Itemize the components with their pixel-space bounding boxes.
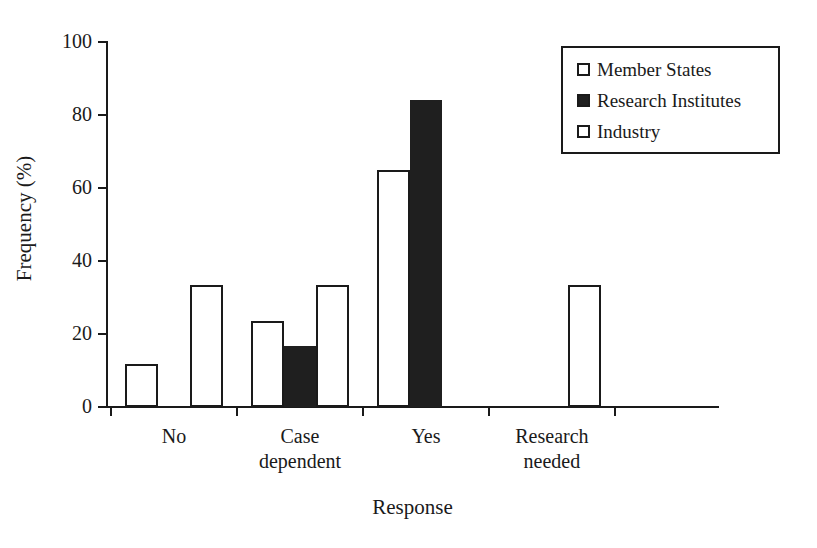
bar xyxy=(284,346,317,407)
x-category-label-line: Research xyxy=(472,424,632,449)
y-tick-label: 20 xyxy=(30,323,92,343)
x-category-label-line: dependent xyxy=(220,449,380,474)
bar xyxy=(410,100,443,407)
y-tick-mark xyxy=(98,406,106,408)
x-tick-mark xyxy=(614,407,616,416)
bar xyxy=(125,364,158,407)
y-tick-mark xyxy=(98,41,106,43)
bar xyxy=(316,285,349,407)
legend-item-research-institutes: Research Institutes xyxy=(577,91,741,110)
y-tick-label: 100 xyxy=(30,31,92,51)
x-tick-mark xyxy=(362,407,364,416)
x-tick-mark xyxy=(236,407,238,416)
bar xyxy=(251,321,284,407)
legend-label: Member States xyxy=(597,60,712,79)
bar xyxy=(377,170,410,407)
y-tick-mark xyxy=(98,187,106,189)
y-tick-label: 80 xyxy=(30,104,92,124)
legend-item-industry: Industry xyxy=(577,122,660,141)
legend: Member States Research Institutes Indust… xyxy=(561,46,780,154)
x-tick-mark xyxy=(488,407,490,416)
legend-label: Research Institutes xyxy=(597,91,741,110)
x-axis-label: Response xyxy=(107,495,718,520)
y-tick-label: 0 xyxy=(30,396,92,416)
bar xyxy=(190,285,223,407)
legend-label: Industry xyxy=(597,122,660,141)
y-tick-mark xyxy=(98,260,106,262)
bar-chart: Frequency (%) 020406080100 NoCasedepende… xyxy=(0,0,817,548)
legend-swatch-filled-icon xyxy=(577,94,590,107)
x-category-label-line: needed xyxy=(472,449,632,474)
legend-item-member-states: Member States xyxy=(577,60,712,79)
y-tick-label: 60 xyxy=(30,177,92,197)
legend-swatch-open-icon xyxy=(577,63,590,76)
bar xyxy=(568,285,601,407)
y-tick-label: 40 xyxy=(30,250,92,270)
y-tick-mark xyxy=(98,114,106,116)
y-tick-mark xyxy=(98,333,106,335)
y-axis-label: Frequency (%) xyxy=(12,109,37,329)
x-category-label: Researchneeded xyxy=(472,424,632,474)
x-tick-mark xyxy=(110,407,112,416)
legend-swatch-open-icon xyxy=(577,125,590,138)
